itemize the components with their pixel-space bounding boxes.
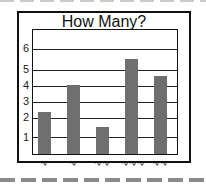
bottom-dashed-border xyxy=(0,178,206,182)
ytick-2: 2 xyxy=(17,111,29,123)
xlabel-4: ∿∿∿ xyxy=(121,158,141,168)
xlabel-2: ∿ xyxy=(63,158,83,168)
ytick-6: 6 xyxy=(17,42,29,54)
gridline-5 xyxy=(33,70,177,71)
plot-area xyxy=(32,29,178,155)
xlabel-5: ∿∿ xyxy=(150,158,170,168)
ytick-3: 3 xyxy=(17,95,29,107)
bar-2 xyxy=(67,85,80,154)
ytick-4: 4 xyxy=(17,79,29,91)
xlabel-3: ∿∿ xyxy=(92,158,112,168)
bar-5 xyxy=(154,76,167,154)
bar-4 xyxy=(125,59,138,154)
gridline-6 xyxy=(33,49,177,50)
ytick-1: 1 xyxy=(17,131,29,143)
bar-1 xyxy=(38,112,51,154)
ytick-5: 5 xyxy=(17,63,29,75)
xlabel-1: ∿ xyxy=(34,158,54,168)
bar-3 xyxy=(96,127,109,154)
top-dashed-border xyxy=(0,0,206,2)
